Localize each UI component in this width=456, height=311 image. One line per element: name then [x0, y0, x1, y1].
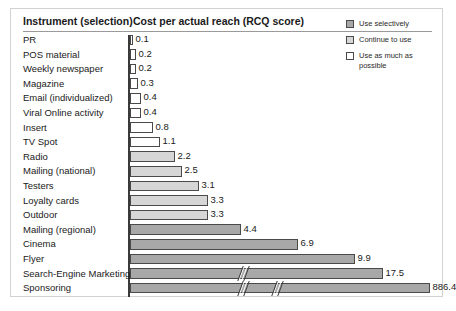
bar-value-label: 1.1	[163, 135, 176, 146]
bar-value-label: 9.9	[358, 252, 371, 263]
bar-value-label: 2.2	[178, 150, 191, 161]
legend-swatch-icon	[346, 36, 354, 44]
bar[interactable]	[130, 78, 138, 89]
chart-legend: Use selectivelyContinue to useUse as muc…	[346, 19, 432, 73]
bar-row: Mailing (national)2.5	[11, 164, 444, 179]
bar-row-label: Testers	[23, 180, 54, 192]
legend-item-label: Use as much as possible	[359, 51, 431, 70]
bar-wrapper	[130, 108, 141, 119]
bar-row-label: Loyalty cards	[23, 195, 79, 207]
bar-wrapper	[130, 268, 383, 279]
bar[interactable]	[130, 283, 430, 294]
bar[interactable]	[130, 108, 141, 119]
bar-row: Sponsoring886.4	[11, 281, 444, 296]
bar-row-label: Mailing (regional)	[23, 224, 96, 236]
bar-value-label: 0.4	[144, 106, 157, 117]
bar[interactable]	[130, 122, 153, 133]
bar-value-label: 2.5	[185, 164, 198, 175]
bar-row-label: POS material	[23, 49, 80, 61]
legend-swatch-icon	[346, 20, 354, 28]
bar-value-label: 0.1	[136, 33, 149, 44]
bar[interactable]	[130, 210, 208, 221]
bar-row: Outdoor3.3	[11, 208, 444, 223]
bar-row: Flyer9.9	[11, 252, 444, 267]
bar-value-label: 886.4	[433, 281, 456, 292]
bar-value-label: 0.8	[156, 121, 169, 132]
bar-row: Insert0.8	[11, 121, 444, 136]
bar-wrapper	[130, 224, 241, 235]
bar-wrapper	[130, 137, 160, 148]
bar-row-label: Insert	[23, 122, 47, 134]
column-header-instrument: Instrument (selection)	[23, 15, 133, 27]
bar-row: Radio2.2	[11, 150, 444, 165]
bar-wrapper	[130, 49, 136, 60]
bar-value-label: 0.4	[144, 91, 157, 102]
bar-row-label: Search-Engine Marketing	[23, 268, 130, 280]
bar[interactable]	[130, 64, 136, 75]
bar-row-label: Mailing (national)	[23, 165, 95, 177]
bar[interactable]	[130, 181, 199, 192]
bar-value-label: 0.3	[141, 77, 154, 88]
bar-value-label: 3.3	[211, 194, 224, 205]
bar[interactable]	[130, 224, 241, 235]
bar-row: Viral Online activity0.4	[11, 106, 444, 121]
bar-row-label: Cinema	[23, 238, 56, 250]
bar-wrapper	[130, 64, 136, 75]
bar-row-label: PR	[23, 34, 36, 46]
bar[interactable]	[130, 35, 133, 46]
legend-item-label: Use selectively	[359, 19, 431, 29]
bar[interactable]	[130, 137, 160, 148]
bar-row-label: Flyer	[23, 253, 44, 265]
bar[interactable]	[130, 166, 182, 177]
legend-swatch-icon	[346, 52, 354, 60]
bar-row: Magazine0.3	[11, 77, 444, 92]
bar-row-label: Radio	[23, 151, 48, 163]
bar-row-label: Viral Online activity	[23, 107, 104, 119]
bar-row: TV Spot1.1	[11, 135, 444, 150]
bar-wrapper	[130, 166, 182, 177]
bar-row-label: Weekly newspaper	[23, 63, 103, 75]
bar-value-label: 4.4	[244, 223, 257, 234]
legend-item[interactable]: Continue to use	[346, 35, 432, 49]
bar-value-label: 17.5	[386, 267, 405, 278]
bar[interactable]	[130, 254, 355, 265]
column-header-cost: Cost per actual reach (RCQ score)	[133, 15, 304, 27]
bar-value-label: 3.1	[202, 179, 215, 190]
bar-wrapper	[130, 93, 141, 104]
bar-row-label: Email (individualized)	[23, 92, 113, 104]
bar[interactable]	[130, 151, 175, 162]
bar-value-label: 0.2	[139, 48, 152, 59]
bar[interactable]	[130, 93, 141, 104]
bar-row: Mailing (regional)4.4	[11, 223, 444, 238]
bar-wrapper	[130, 181, 199, 192]
bar-value-label: 0.2	[139, 62, 152, 73]
bar-wrapper	[130, 195, 208, 206]
bar[interactable]	[130, 268, 383, 279]
legend-item-label: Continue to use	[359, 35, 431, 45]
bar-wrapper	[130, 210, 208, 221]
bar-row-label: Outdoor	[23, 209, 57, 221]
bar[interactable]	[130, 195, 208, 206]
bar[interactable]	[130, 239, 298, 250]
bar-wrapper	[130, 239, 298, 250]
bar-value-label: 3.3	[211, 208, 224, 219]
bar[interactable]	[130, 49, 136, 60]
bar-row: Search-Engine Marketing17.5	[11, 267, 444, 282]
chart-container: Instrument (selection) Cost per actual r…	[10, 8, 443, 297]
bar-row: Loyalty cards3.3	[11, 194, 444, 209]
bar-wrapper	[130, 283, 430, 294]
bar-row: Cinema6.9	[11, 237, 444, 252]
bar-value-label: 6.9	[301, 237, 314, 248]
bar-row-label: Sponsoring	[23, 282, 71, 294]
bar-wrapper	[130, 78, 138, 89]
legend-item[interactable]: Use selectively	[346, 19, 432, 33]
bar-wrapper	[130, 151, 175, 162]
bar-row: Testers3.1	[11, 179, 444, 194]
bar-wrapper	[130, 35, 133, 46]
bar-row: Email (individualized)0.4	[11, 91, 444, 106]
bar-row-label: Magazine	[23, 78, 64, 90]
legend-item[interactable]: Use as much as possible	[346, 51, 432, 71]
bar-wrapper	[130, 254, 355, 265]
bar-row-label: TV Spot	[23, 136, 57, 148]
bar-wrapper	[130, 122, 153, 133]
